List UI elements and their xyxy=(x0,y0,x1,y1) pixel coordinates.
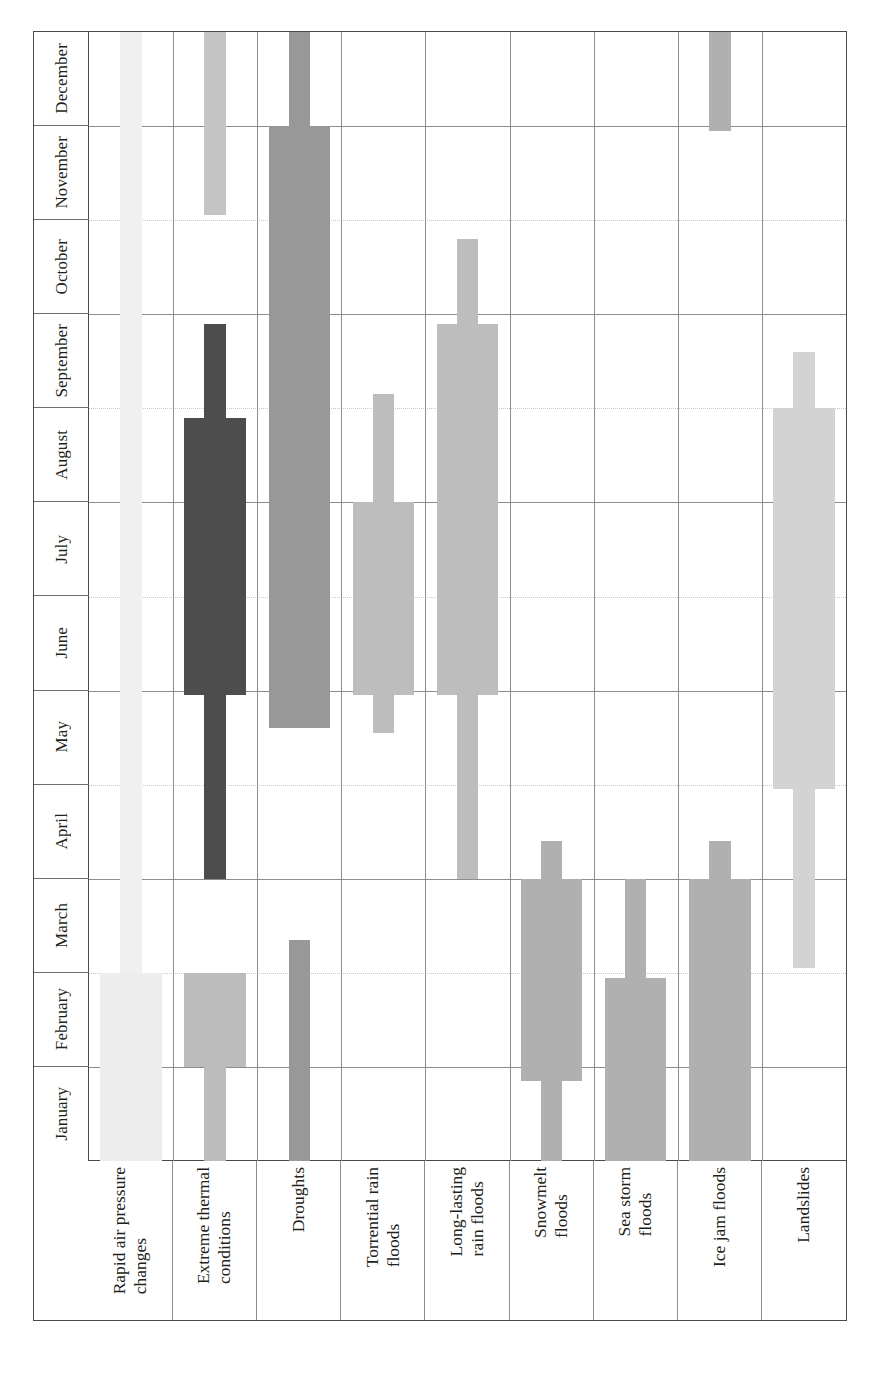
category-separator xyxy=(257,32,258,1161)
month-axis-label: September xyxy=(34,314,89,408)
month-label-text: January xyxy=(52,1087,72,1141)
month-axis-label: June xyxy=(34,597,89,691)
month-label-text: November xyxy=(52,136,72,209)
category-label-text: Long-lasting rain floods xyxy=(446,1167,489,1256)
month-axis-label: April xyxy=(34,785,89,879)
month-label-text: April xyxy=(52,813,72,849)
month-axis-label: November xyxy=(34,126,89,220)
category-separator xyxy=(341,32,342,1161)
category-separator xyxy=(425,32,426,1161)
month-axis-label: July xyxy=(34,502,89,596)
bar-peak xyxy=(353,502,414,695)
category-axis-label: Snowmelt floods xyxy=(510,1161,594,1320)
month-gridline xyxy=(89,220,846,221)
category-axis-label: Landslides xyxy=(762,1161,846,1320)
bar-peak xyxy=(773,408,834,789)
month-axis-label: January xyxy=(34,1067,89,1161)
month-axis-label: May xyxy=(34,691,89,785)
bar-peak xyxy=(184,418,245,696)
category-axis-label: Long-lasting rain floods xyxy=(425,1161,509,1320)
bar-peak xyxy=(100,973,161,1161)
category-separator xyxy=(594,32,595,1161)
month-axis-label: August xyxy=(34,408,89,502)
bar-peak xyxy=(269,126,330,728)
chart-container: DecemberNovemberOctoberSeptemberAugustJu… xyxy=(33,31,847,1321)
month-axis-label: March xyxy=(34,879,89,973)
month-label-text: July xyxy=(52,535,72,564)
month-label-text: February xyxy=(52,988,72,1050)
category-axis-label: Droughts xyxy=(257,1161,341,1320)
month-label-text: June xyxy=(52,627,72,659)
category-label-text: Snowmelt floods xyxy=(530,1167,573,1238)
bar-peak xyxy=(689,879,750,1161)
month-label-text: October xyxy=(52,239,72,294)
month-axis-label: December xyxy=(34,32,89,126)
category-separator xyxy=(762,32,763,1161)
month-axis: DecemberNovemberOctoberSeptemberAugustJu… xyxy=(34,32,89,1161)
bar-extent xyxy=(289,940,310,1161)
category-label-text: Extreme thermal conditions xyxy=(193,1167,236,1284)
bar-extent xyxy=(204,32,225,215)
plot-area xyxy=(89,32,846,1161)
category-label-text: Torrential rain floods xyxy=(362,1167,405,1267)
category-label-text: Ice jam floods xyxy=(709,1167,730,1267)
bar-peak xyxy=(437,324,498,696)
category-label-text: Sea storm floods xyxy=(614,1167,657,1237)
category-label-text: Droughts xyxy=(288,1167,309,1232)
month-label-text: August xyxy=(52,430,72,480)
category-axis: Rapid air pressure changesExtreme therma… xyxy=(89,1161,846,1320)
month-label-text: September xyxy=(52,324,72,398)
category-separator xyxy=(173,32,174,1161)
month-label-text: May xyxy=(52,721,72,752)
category-axis-label: Rapid air pressure changes xyxy=(89,1161,173,1320)
month-label-text: March xyxy=(52,903,72,948)
bar-extent xyxy=(709,32,730,131)
category-label-text: Landslides xyxy=(793,1167,814,1243)
category-axis-label: Sea storm floods xyxy=(594,1161,678,1320)
month-gridline xyxy=(89,126,846,127)
bar-peak xyxy=(521,879,582,1081)
category-label-text: Rapid air pressure changes xyxy=(109,1167,152,1294)
month-axis-label: October xyxy=(34,220,89,314)
month-label-text: December xyxy=(52,43,72,114)
bar-peak xyxy=(605,978,666,1161)
category-separator xyxy=(678,32,679,1161)
category-separator xyxy=(510,32,511,1161)
category-axis-label: Ice jam floods xyxy=(678,1161,762,1320)
category-axis-label: Extreme thermal conditions xyxy=(173,1161,257,1320)
bar-peak xyxy=(184,973,245,1067)
category-axis-label: Torrential rain floods xyxy=(341,1161,425,1320)
month-axis-label: February xyxy=(34,973,89,1067)
